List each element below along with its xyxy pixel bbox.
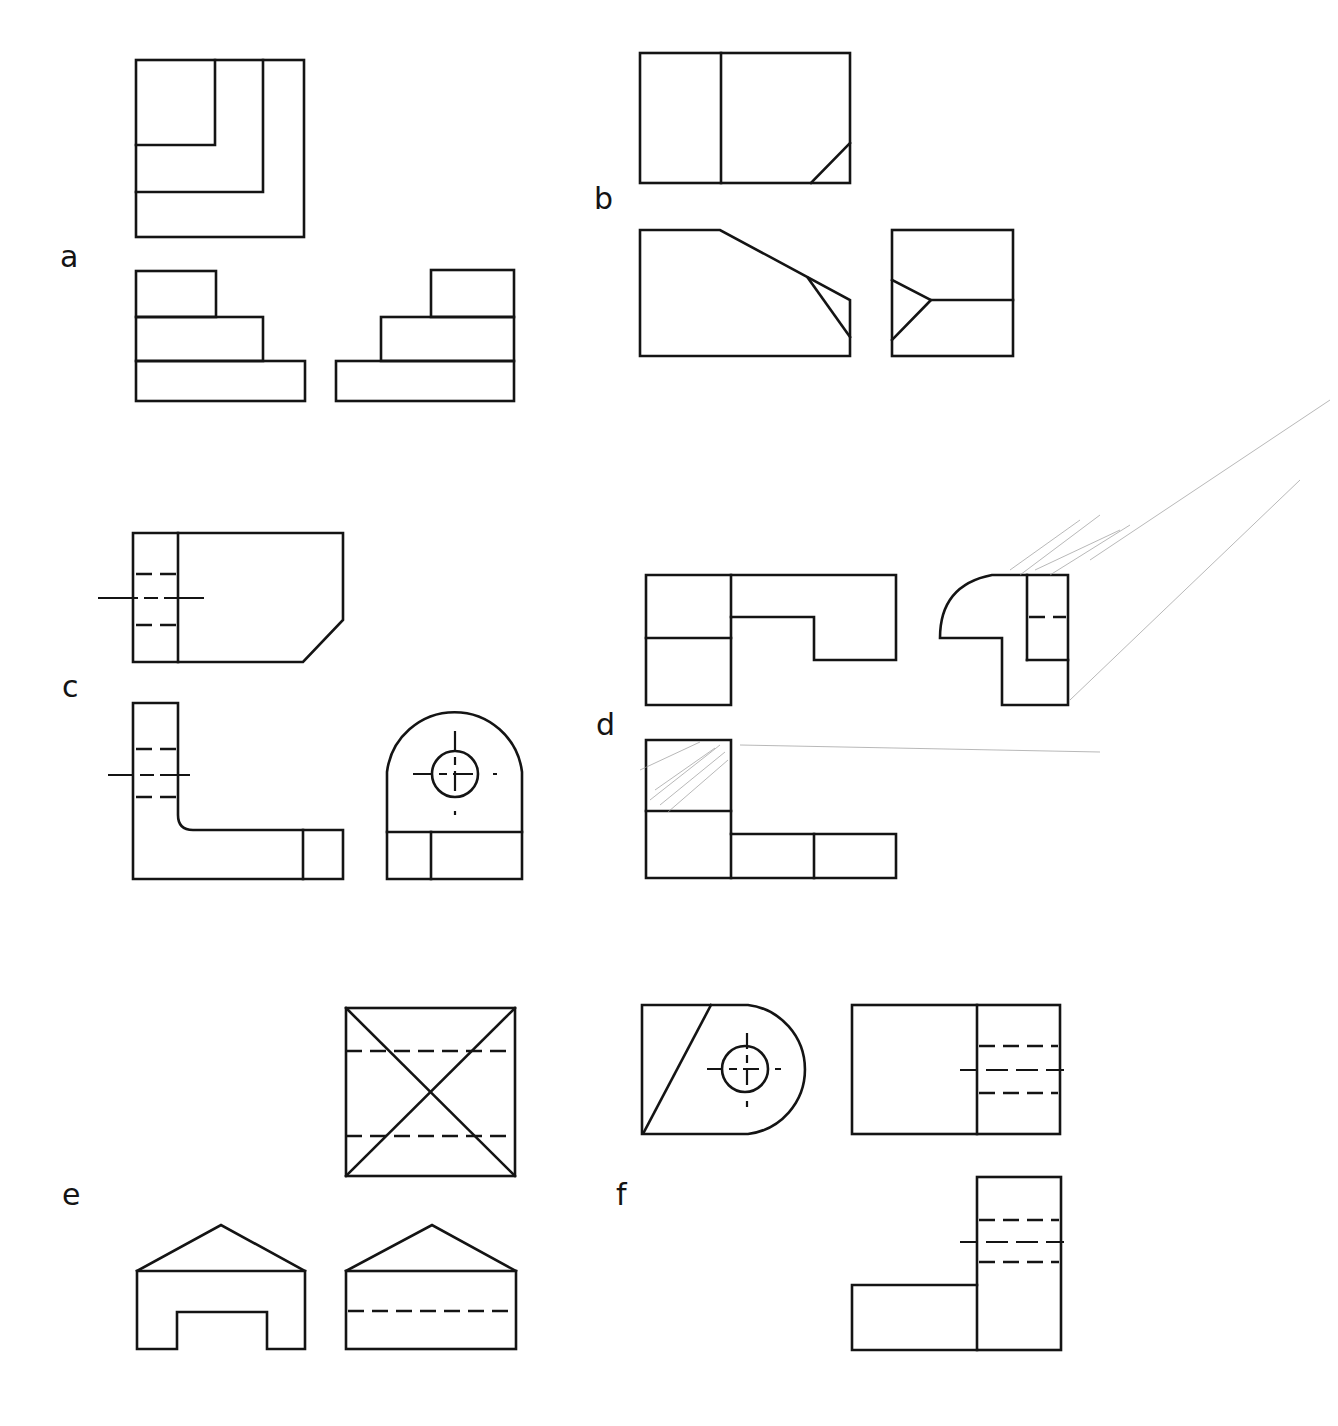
b-top-view xyxy=(640,53,850,183)
a-front-view xyxy=(136,271,305,401)
pencil-marks xyxy=(640,400,1330,812)
orthographic-drawing-sheet xyxy=(0,0,1338,1426)
problem-d xyxy=(640,400,1330,878)
problem-f xyxy=(642,1005,1081,1350)
f-bottom-view xyxy=(852,1177,1076,1350)
d-side-view xyxy=(940,575,1068,705)
d-front-view xyxy=(646,575,896,705)
b-front-view xyxy=(640,230,850,356)
problem-a xyxy=(136,60,514,401)
d-bottom-view xyxy=(646,740,896,878)
problem-e xyxy=(137,1008,516,1349)
a-side-view xyxy=(336,270,514,401)
problem-c xyxy=(98,533,522,879)
e-side-view xyxy=(346,1225,516,1349)
a-top-view xyxy=(136,60,304,237)
c-front-view xyxy=(108,703,343,879)
f-front-view xyxy=(642,1005,805,1134)
b-side-view xyxy=(892,230,1013,356)
c-top-view xyxy=(98,533,343,662)
f-side-view xyxy=(852,1005,1081,1134)
e-front-view xyxy=(137,1225,305,1349)
c-side-view xyxy=(387,712,522,879)
problem-b xyxy=(640,53,1013,356)
e-top-view xyxy=(346,1008,515,1176)
